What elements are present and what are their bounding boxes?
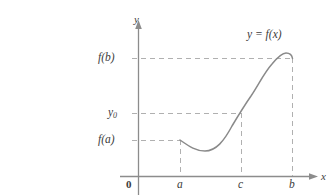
y-axis-label: y — [134, 14, 139, 25]
x-tick-label-a: a — [177, 179, 183, 191]
vertical-guide-lines — [181, 58, 293, 176]
y-tick-label-y0: y0 — [108, 107, 117, 119]
y-tick-label-fb: f(b) — [98, 52, 115, 64]
function-curve — [180, 53, 293, 151]
y-tick-label-fa: f(a) — [98, 134, 115, 146]
curve-equation-label: y = f(x) — [247, 29, 282, 41]
y-tick-label-y0-subscript: 0 — [113, 111, 117, 120]
x-tick-label-c: c — [238, 179, 243, 191]
y-axis — [135, 20, 142, 195]
x-axis-arrow-icon — [309, 173, 318, 180]
x-tick-label-b: b — [289, 179, 295, 191]
origin-label: 0 — [126, 179, 132, 190]
function-graph-figure: y x 0 a c b f(b) y0 f(a) y = f(x) — [0, 0, 333, 195]
x-axis-label: x — [321, 171, 326, 182]
graph-canvas — [0, 0, 333, 195]
horizontal-guide-lines — [132, 59, 292, 141]
